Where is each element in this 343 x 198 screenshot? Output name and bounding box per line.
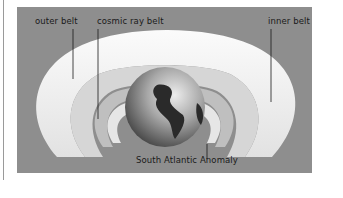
outer-belt-label: outer belt [35,16,78,26]
inner-belt-label: inner belt [268,16,310,26]
radiation-belts-diagram: outer belt cosmic ray belt inner belt So… [17,7,312,173]
south-atlantic-anomaly-label: South Atlantic Anomaly [136,155,238,165]
belts-illustration [17,7,312,173]
left-margin-rule [3,0,4,180]
cosmic-ray-belt-label: cosmic ray belt [97,16,164,26]
